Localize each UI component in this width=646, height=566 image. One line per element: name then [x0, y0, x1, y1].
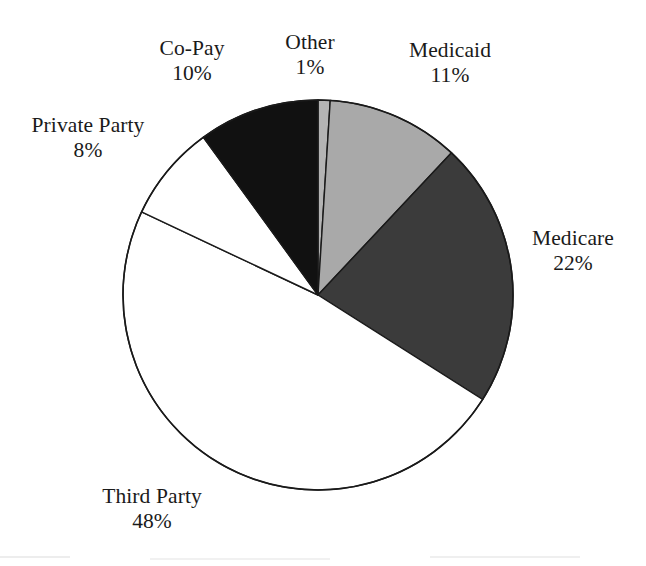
scan-artifact: [0, 556, 70, 558]
slice-label-co-pay-value: 10%: [137, 61, 247, 86]
slice-label-third-party-value: 48%: [62, 509, 242, 534]
slice-label-other-value: 1%: [258, 55, 362, 80]
pie-chart: Co-Pay 10% Other 1% Medicaid 11% Private…: [0, 0, 646, 566]
scan-artifact: [430, 556, 580, 558]
slice-label-medicare-value: 22%: [508, 251, 638, 276]
slice-label-medicare-name: Medicare: [508, 226, 638, 251]
slice-label-other: Other 1%: [258, 30, 362, 81]
slice-label-third-party-name: Third Party: [62, 484, 242, 509]
slice-label-medicaid-name: Medicaid: [385, 38, 515, 63]
slice-label-medicaid: Medicaid 11%: [385, 38, 515, 89]
slice-label-private-party: Private Party 8%: [8, 113, 168, 164]
slice-label-private-party-value: 8%: [8, 138, 168, 163]
slice-label-co-pay: Co-Pay 10%: [137, 36, 247, 87]
scan-artifact: [150, 558, 330, 560]
slice-label-private-party-name: Private Party: [8, 113, 168, 138]
slice-label-other-name: Other: [258, 30, 362, 55]
slice-label-co-pay-name: Co-Pay: [137, 36, 247, 61]
pie-slice-group: [123, 100, 513, 490]
slice-label-medicaid-value: 11%: [385, 63, 515, 88]
slice-label-medicare: Medicare 22%: [508, 226, 638, 277]
slice-label-third-party: Third Party 48%: [62, 484, 242, 535]
pie-chart-canvas: [0, 0, 646, 566]
